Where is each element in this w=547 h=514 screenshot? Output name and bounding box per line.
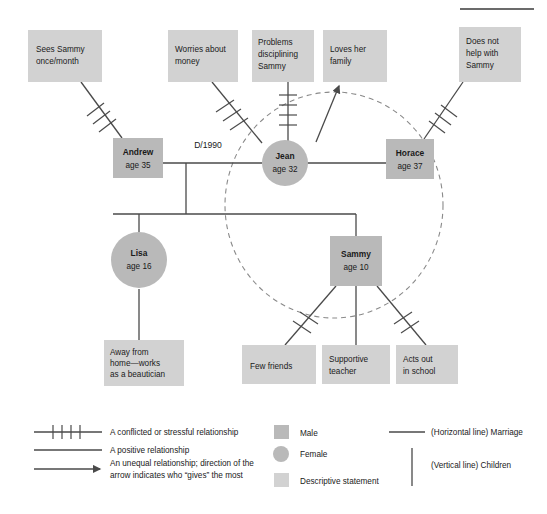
desc-beautician-line1: Away from bbox=[110, 348, 149, 357]
legend-marriage: (Horizontal line) Marriage bbox=[389, 428, 523, 437]
legend-children: (Vertical line) Children bbox=[412, 448, 512, 486]
desc-acts-out: Acts out in school bbox=[396, 345, 458, 384]
legend-children-label: (Vertical line) Children bbox=[431, 461, 512, 470]
legend-unequal: An unequal relationship; direction of th… bbox=[34, 459, 254, 480]
divorce-label: D/1990 bbox=[194, 140, 222, 150]
desc-loves-family-line1: Loves her bbox=[330, 45, 366, 54]
desc-beautician-line2: home—works bbox=[110, 359, 160, 368]
edge-andrew-sees-sammy bbox=[81, 82, 122, 138]
desc-acts-out-line1: Acts out bbox=[403, 355, 433, 364]
andrew-name: Andrew bbox=[123, 147, 154, 157]
desc-supportive-line1: Supportive bbox=[329, 355, 369, 364]
edge-jean-loves-family-arrow bbox=[316, 86, 339, 142]
person-node-sammy: Sammy age 10 bbox=[330, 236, 382, 286]
legend-male-label: Male bbox=[300, 429, 318, 438]
edge-jean-problems-disciplining bbox=[279, 82, 297, 143]
desc-loves-family-line2: family bbox=[330, 57, 352, 66]
edge-sammy-acts-out bbox=[377, 286, 426, 345]
desc-problems-line2: disciplining bbox=[258, 50, 298, 59]
legend-positive-label: A positive relationship bbox=[110, 446, 190, 455]
edge-sammy-few-friends bbox=[285, 286, 336, 345]
horace-age: age 37 bbox=[397, 162, 422, 171]
legend-marriage-label: (Horizontal line) Marriage bbox=[431, 428, 523, 437]
desc-loves-family: Loves her family bbox=[323, 30, 387, 82]
desc-supportive-teacher: Supportive teacher bbox=[322, 345, 390, 384]
person-node-horace: Horace age 37 bbox=[386, 139, 434, 179]
legend-male: Male bbox=[274, 425, 318, 439]
desc-sees-sammy-line1: Sees Sammy bbox=[36, 45, 86, 54]
legend-unequal-label-line1: An unequal relationship; direction of th… bbox=[110, 459, 254, 468]
desc-few-friends: Few friends bbox=[242, 345, 316, 384]
edge-horace-does-not-help bbox=[424, 82, 463, 139]
desc-no-help-line2: help with bbox=[466, 49, 499, 58]
desc-worries-money-line1: Worries about bbox=[175, 45, 227, 54]
desc-problems-line3: Sammy bbox=[258, 62, 287, 71]
desc-beautician-line3: as a beautician bbox=[110, 370, 166, 379]
desc-few-friends-line1: Few friends bbox=[250, 362, 292, 371]
desc-sees-sammy: Sees Sammy once/month bbox=[28, 30, 102, 82]
legend-unequal-label-line2: arrow indicates who “gives” the most bbox=[110, 471, 244, 480]
desc-worries-money: Worries about money bbox=[168, 30, 238, 82]
edge-jean-worries-money bbox=[212, 82, 262, 143]
desc-problems-line1: Problems bbox=[258, 38, 293, 47]
desc-no-help-line1: Does not bbox=[466, 37, 499, 46]
genogram-canvas: Sees Sammy once/month Worries about mone… bbox=[0, 0, 547, 514]
legend-positive: A positive relationship bbox=[34, 446, 190, 455]
jean-age: age 32 bbox=[272, 165, 297, 174]
desc-problems-disciplining: Problems disciplining Sammy bbox=[252, 30, 314, 82]
lisa-age: age 16 bbox=[126, 262, 151, 271]
desc-supportive-line2: teacher bbox=[329, 367, 357, 376]
legend-female: Female bbox=[273, 446, 328, 462]
legend-conflicted: A conflicted or stressful relationship bbox=[34, 425, 239, 439]
legend-descriptive-label: Descriptive statement bbox=[300, 477, 379, 486]
genogram-figure: Sees Sammy once/month Worries about mone… bbox=[0, 0, 547, 514]
jean-name: Jean bbox=[275, 151, 294, 161]
andrew-age: age 35 bbox=[125, 161, 150, 170]
person-node-lisa: Lisa age 16 bbox=[111, 232, 167, 288]
lisa-name: Lisa bbox=[131, 248, 148, 258]
legend-conflicted-label: A conflicted or stressful relationship bbox=[110, 428, 239, 437]
desc-no-help-line3: Sammy bbox=[466, 61, 495, 70]
person-node-andrew: Andrew age 35 bbox=[113, 138, 163, 178]
desc-acts-out-line2: in school bbox=[403, 367, 435, 376]
person-node-jean: Jean age 32 bbox=[262, 140, 308, 186]
sammy-name: Sammy bbox=[341, 249, 371, 259]
desc-worries-money-line2: money bbox=[175, 57, 200, 66]
legend-female-label: Female bbox=[300, 450, 328, 459]
sammy-age: age 10 bbox=[343, 263, 368, 272]
horace-name: Horace bbox=[396, 148, 425, 158]
desc-sees-sammy-line2: once/month bbox=[36, 57, 79, 66]
desc-beautician: Away from home—works as a beautician bbox=[104, 340, 184, 386]
desc-does-not-help: Does not help with Sammy bbox=[459, 27, 521, 82]
legend-descriptive: Descriptive statement bbox=[274, 473, 379, 487]
